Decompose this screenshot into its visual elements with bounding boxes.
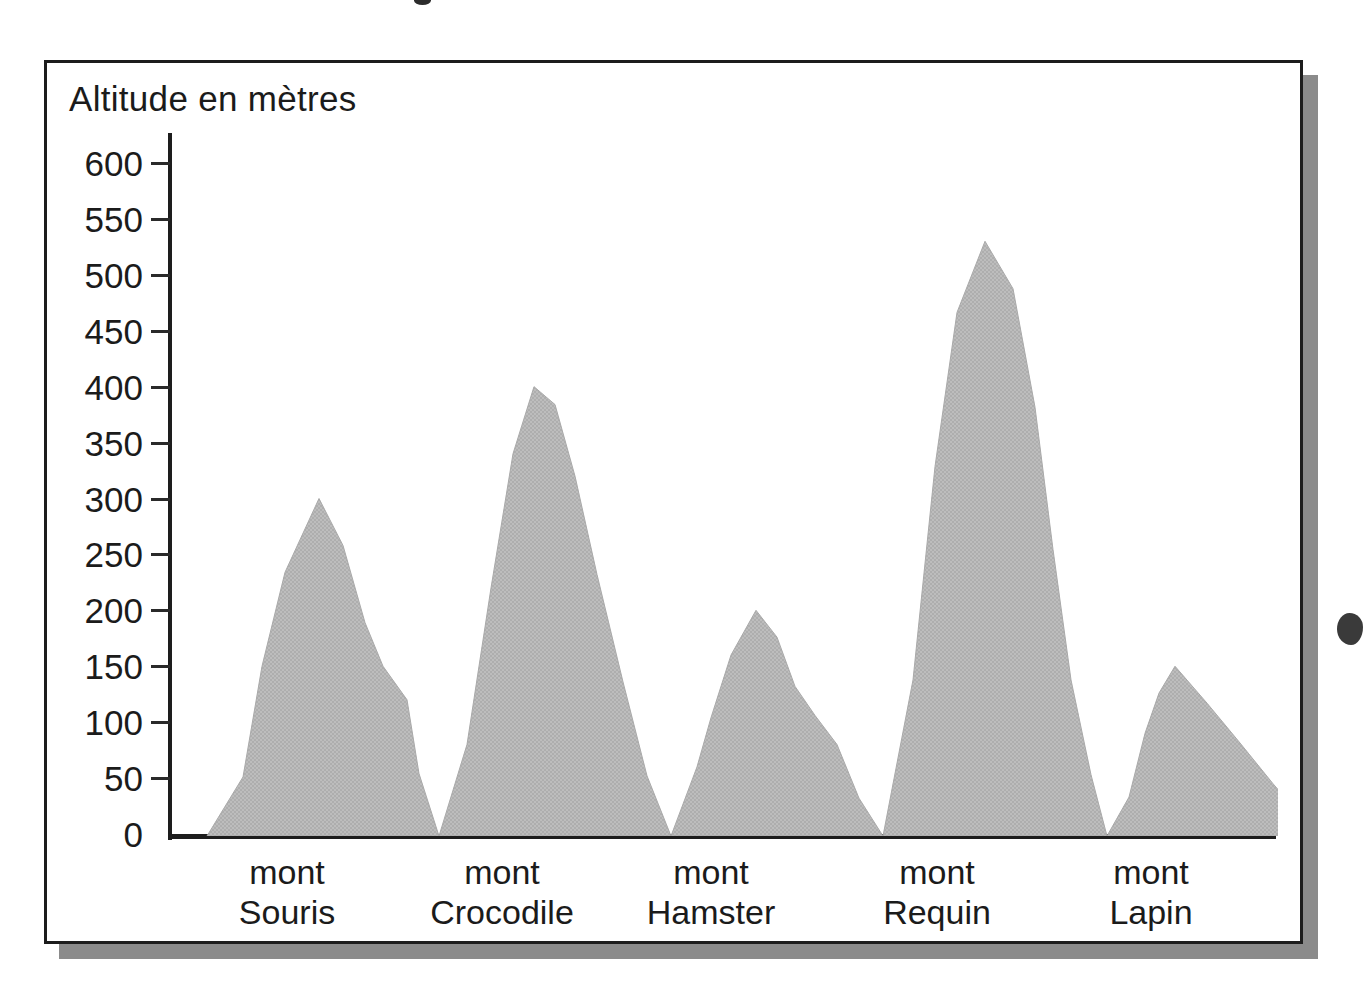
category-label-line1: mont <box>167 853 407 893</box>
category-label-line2: Lapin <box>1031 893 1271 933</box>
category-label-line2: Crocodile <box>382 893 622 933</box>
x-axis-category-label: montCrocodile <box>382 853 622 933</box>
x-axis-category-label: montRequin <box>817 853 1057 933</box>
y-axis-tick-label: 450 <box>47 314 143 349</box>
chart-title: Altitude en mètres <box>69 79 357 119</box>
scan-artifact-blob-icon <box>1337 613 1363 645</box>
category-label-line1: mont <box>591 853 831 893</box>
scan-artifact-dot-icon <box>414 0 431 5</box>
category-label-line2: Hamster <box>591 893 831 933</box>
mountain-profile-chart <box>168 133 1278 836</box>
category-label-line1: mont <box>817 853 1057 893</box>
x-axis-category-label: montHamster <box>591 853 831 933</box>
y-axis-tick-label: 400 <box>47 370 143 405</box>
y-axis-tick-label: 600 <box>47 146 143 181</box>
x-axis-category-label: montSouris <box>167 853 407 933</box>
y-axis-tick-label: 500 <box>47 258 143 293</box>
category-label-line1: mont <box>1031 853 1271 893</box>
y-axis-tick-label: 50 <box>47 761 143 796</box>
category-label-line2: Souris <box>167 893 407 933</box>
y-axis-tick-label: 150 <box>47 649 143 684</box>
mountain-silhouette <box>207 241 1278 836</box>
y-axis-tick-label: 100 <box>47 705 143 740</box>
y-axis-tick-label: 0 <box>47 817 143 852</box>
y-axis-tick-label: 200 <box>47 593 143 628</box>
y-axis-tick-label: 550 <box>47 202 143 237</box>
y-axis-tick-label: 350 <box>47 426 143 461</box>
category-label-line1: mont <box>382 853 622 893</box>
figure-frame: Altitude en mètres 600550500450400350300… <box>44 60 1303 944</box>
chart-area: Altitude en mètres 600550500450400350300… <box>47 63 1300 941</box>
y-axis-tick-label: 250 <box>47 537 143 572</box>
y-axis-tick-label: 300 <box>47 482 143 517</box>
x-axis-category-label: montLapin <box>1031 853 1271 933</box>
category-label-line2: Requin <box>817 893 1057 933</box>
